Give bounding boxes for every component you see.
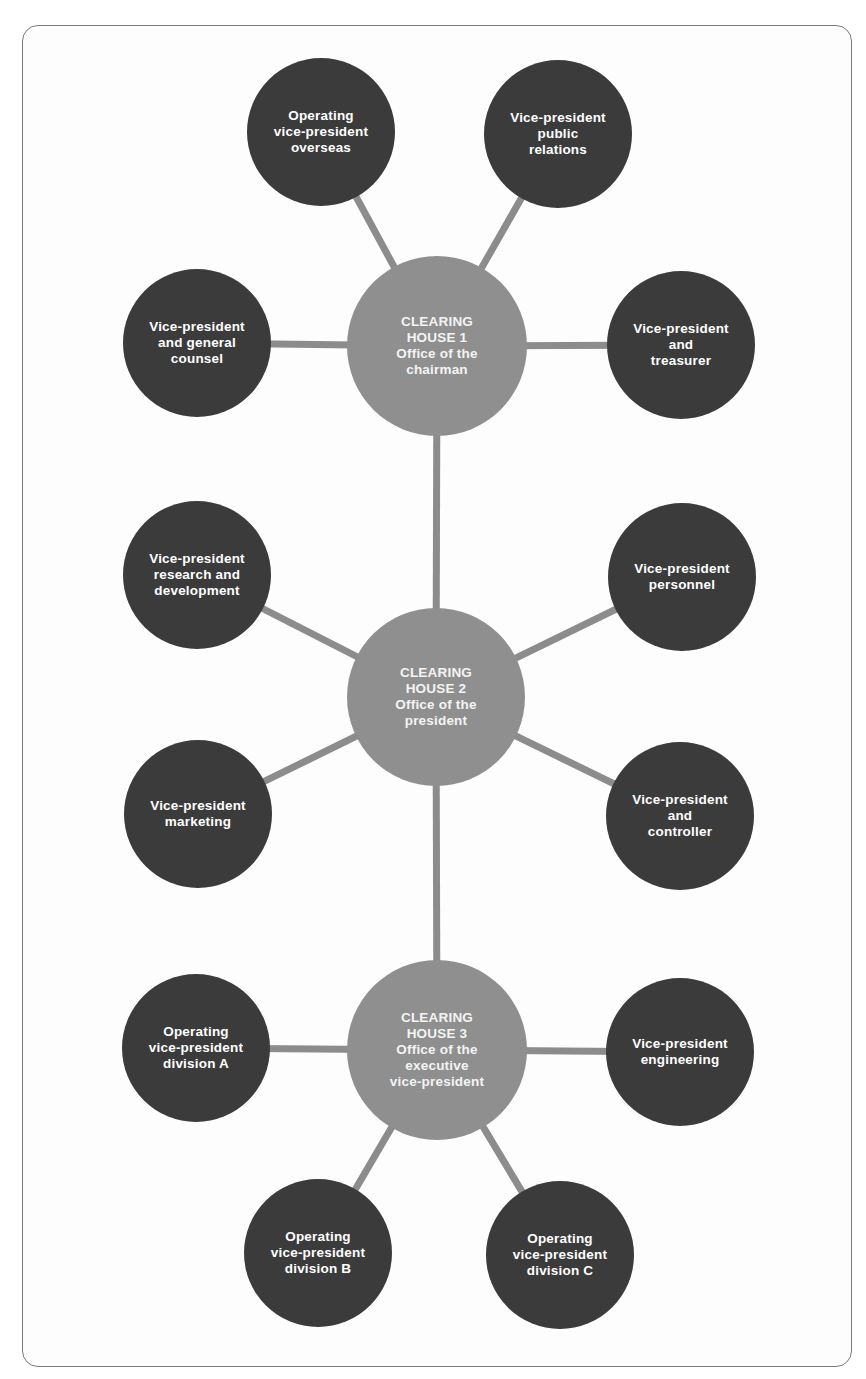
- node-label: Vice-president marketing: [150, 798, 246, 830]
- node-label: Vice-president personnel: [634, 561, 730, 593]
- vp-public-relations: Vice-president public relations: [484, 60, 632, 208]
- vp-research-development: Vice-president research and development: [123, 501, 271, 649]
- clearing-house-1: CLEARING HOUSE 1 Office of the chairman: [347, 256, 527, 436]
- vp-general-counsel: Vice-president and general counsel: [123, 269, 271, 417]
- vp-engineering: Vice-president engineering: [606, 978, 754, 1126]
- vp-personnel: Vice-president personnel: [608, 503, 756, 651]
- vp-division-b: Operating vice-president division B: [244, 1179, 392, 1327]
- node-label: Operating vice-president division C: [513, 1231, 607, 1279]
- node-label: Vice-president research and development: [149, 551, 245, 599]
- node-label: Operating vice-president overseas: [274, 108, 368, 156]
- node-label: Vice-president and general counsel: [149, 319, 245, 367]
- node-label: CLEARING HOUSE 2 Office of the president: [395, 665, 476, 729]
- node-label: Vice-president and treasurer: [633, 321, 729, 369]
- node-label: Vice-president public relations: [510, 110, 606, 158]
- vp-overseas: Operating vice-president overseas: [247, 58, 395, 206]
- vp-treasurer: Vice-president and treasurer: [607, 271, 755, 419]
- vp-marketing: Vice-president marketing: [124, 740, 272, 888]
- node-label: Operating vice-president division A: [149, 1024, 243, 1072]
- node-label: Vice-president and controller: [632, 792, 728, 840]
- vp-controller: Vice-president and controller: [606, 742, 754, 890]
- clearing-house-3: CLEARING HOUSE 3 Office of the executive…: [347, 960, 527, 1140]
- node-label: CLEARING HOUSE 1 Office of the chairman: [396, 314, 477, 378]
- node-label: Operating vice-president division B: [271, 1229, 365, 1277]
- vp-division-c: Operating vice-president division C: [486, 1181, 634, 1329]
- clearing-house-2: CLEARING HOUSE 2 Office of the president: [347, 608, 525, 786]
- node-label: CLEARING HOUSE 3 Office of the executive…: [390, 1010, 484, 1090]
- vp-division-a: Operating vice-president division A: [122, 974, 270, 1122]
- node-label: Vice-president engineering: [632, 1036, 728, 1068]
